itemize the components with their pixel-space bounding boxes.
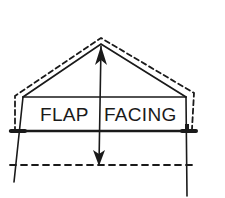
flap-facing-diagram: FLAP FACING [0,0,225,198]
flap-triangle [23,44,186,97]
flap-label: FLAP [40,104,89,125]
notch-right [185,124,189,132]
facing-label: FACING [104,104,177,125]
grainline [99,46,101,164]
right-edge-line [186,97,187,196]
